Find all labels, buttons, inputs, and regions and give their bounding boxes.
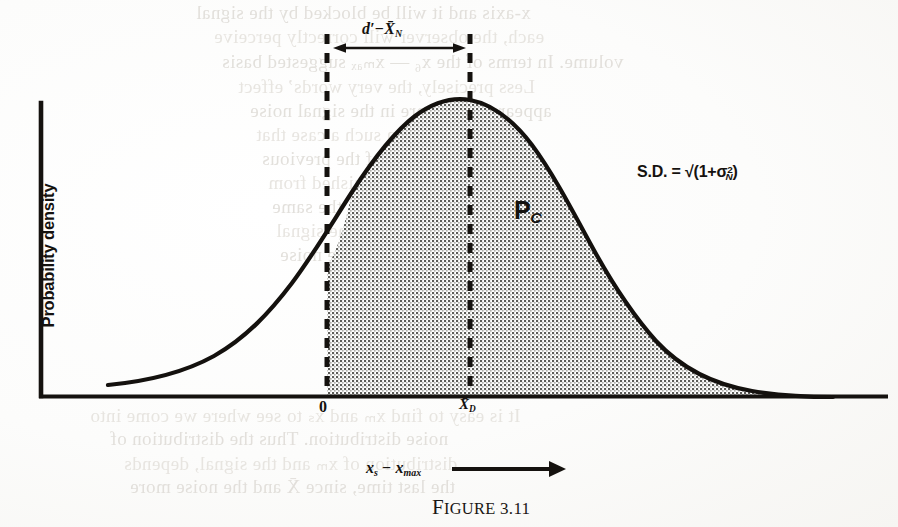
span-arrow-label-sub: N bbox=[395, 28, 402, 39]
x-axis-label-minus: − x bbox=[378, 459, 404, 476]
region-label-pc: PC bbox=[514, 196, 541, 227]
figure-caption-word: FIGURE bbox=[432, 495, 495, 519]
distribution-plot bbox=[0, 0, 898, 527]
x-axis-direction-arrow bbox=[452, 461, 566, 477]
y-axis-label: Probability density bbox=[39, 156, 58, 356]
standard-deviation-label: S.D. = √(1+σ2N) bbox=[637, 163, 738, 182]
x-tick-label-xd: X̄D bbox=[459, 396, 476, 414]
x-axis-label: xs − xmax bbox=[366, 459, 421, 478]
x-axis-label-sub-max: max bbox=[404, 467, 422, 478]
region-label-pc-sub: C bbox=[530, 209, 541, 226]
shaded-region-pc bbox=[325, 90, 837, 398]
sd-label-prefix: S.D. = √(1+σ bbox=[637, 163, 727, 180]
sd-label-suffix: ) bbox=[733, 163, 738, 180]
region-label-pc-main: P bbox=[514, 196, 530, 224]
figure-caption: FIGURE 3.11 bbox=[432, 495, 530, 520]
figure-3-11: Probability density d′−X̄N S.D. = √(1+σ2… bbox=[0, 0, 898, 527]
x-axis-label-main: x bbox=[366, 459, 374, 476]
x-tick-label-zero: 0 bbox=[319, 398, 327, 416]
x-tick-label-xd-sub: D bbox=[469, 404, 476, 414]
x-tick-label-xd-main: X̄ bbox=[459, 396, 469, 412]
span-arrow-d-prime-minus-xn bbox=[333, 43, 466, 53]
figure-caption-number: 3.11 bbox=[500, 499, 530, 518]
span-arrow-label-lead: d′−X̄ bbox=[362, 20, 395, 37]
span-arrow-label: d′−X̄N bbox=[362, 20, 402, 39]
sd-label-subscript: N bbox=[726, 171, 733, 182]
